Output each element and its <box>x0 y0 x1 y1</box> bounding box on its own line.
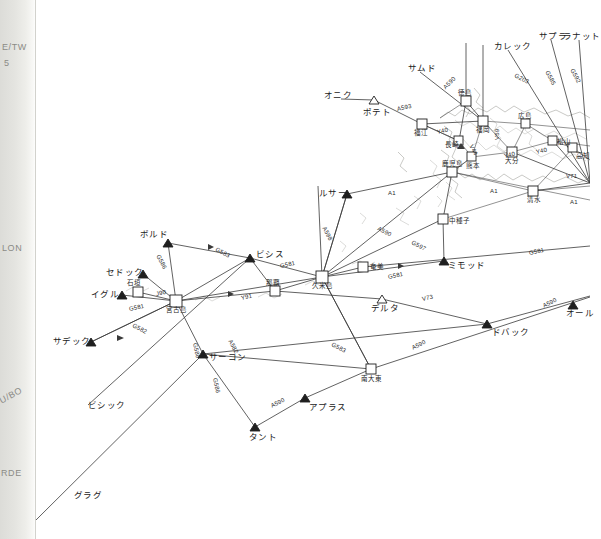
waypoint-label-sedokku[interactable]: セドック <box>106 268 144 277</box>
waypoint-label-apurasu[interactable]: アプラス <box>309 403 347 412</box>
edge-text-2: LON <box>2 243 22 253</box>
airport-label-tokushima[interactable]: 徳島 <box>458 90 472 97</box>
airway-routes <box>36 40 590 520</box>
waypoint-label-iguru[interactable]: イグル <box>91 290 119 299</box>
waypoint-label-tanto[interactable]: タント <box>249 433 277 442</box>
waypoint-label-ranatto[interactable]: ラナット <box>563 32 601 41</box>
airway-label-a1-27[interactable]: A1 <box>570 199 578 205</box>
waypoint-label-saakon[interactable]: サーコン <box>209 353 247 362</box>
waypoint-label-samudo[interactable]: サムド <box>408 64 436 73</box>
page-edge-rule <box>35 0 36 539</box>
waypoint-label-rusaa[interactable]: ルサー <box>319 189 347 198</box>
airport-label-naha[interactable]: 那覇 <box>266 280 280 287</box>
airport-label-kochi[interactable]: 高知 <box>576 153 590 160</box>
waypoint-label-sadekku[interactable]: サデック <box>53 337 91 346</box>
waypoint-label-borudo[interactable]: ボルド <box>140 230 168 239</box>
airport-label-amami[interactable]: 奄美 <box>370 264 384 271</box>
airport-label-kumamoto[interactable]: 熊本 <box>466 163 480 170</box>
waypoint-label-bishikku[interactable]: ビシック <box>88 401 126 410</box>
waypoint-label-guragu[interactable]: グラグ <box>74 491 102 500</box>
waypoint-label-karekku[interactable]: カレック <box>494 42 532 51</box>
airport-label-kumejima[interactable]: 久米島 <box>312 283 334 290</box>
airport-label-minamidaito[interactable]: 南大東 <box>361 376 383 383</box>
airport-label-fukue[interactable]: 福江 <box>414 130 428 137</box>
edge-text-3: U/BO <box>0 385 24 405</box>
airway-label-v71-28[interactable]: V71 <box>566 173 577 179</box>
edge-text-1: 5 <box>4 58 10 68</box>
waypoint-label-mimoddo[interactable]: ミモッド <box>448 261 486 270</box>
airport-label-oita[interactable]: 大分 <box>505 158 519 165</box>
airway-label-a1-25[interactable]: A1 <box>388 190 396 196</box>
airport-label-nagasaki[interactable]: 長崎 <box>445 142 459 149</box>
edge-text-4: RDE <box>1 468 22 478</box>
waypoint-label-bishisu[interactable]: ビシス <box>256 250 284 259</box>
waypoint-label-poteto[interactable]: ポテト <box>363 108 391 117</box>
waypoint-label-oniku[interactable]: オニク <box>324 91 352 100</box>
airway-label-v59-32[interactable]: V59 <box>494 129 500 140</box>
scanned-page-edge: E/TW 5 LON U/BO RDE <box>0 0 36 539</box>
edge-text-0: E/TW <box>2 42 27 52</box>
airway-label-a1-26[interactable]: A1 <box>490 188 498 194</box>
airport-label-matsuyama[interactable]: 松山 <box>557 139 571 146</box>
airport-label-fukuoka[interactable]: 福岡 <box>476 127 490 134</box>
waypoint-label-dobakku[interactable]: ドバック <box>492 328 530 337</box>
airport-label-miyakojima[interactable]: 宮古島 <box>166 307 188 314</box>
airport-label-nakatane[interactable]: 中種子 <box>449 218 471 225</box>
airport-label-shimizu[interactable]: 清水 <box>527 197 541 204</box>
airport-label-ishigaki[interactable]: 石垣 <box>127 280 141 287</box>
waypoint-label-ooru[interactable]: オール <box>566 309 594 318</box>
waypoint-label-deruta[interactable]: デルタ <box>371 304 399 313</box>
airport-label-kagoshima[interactable]: 鹿児島 <box>442 161 464 168</box>
airport-label-hiroshima[interactable]: 広島 <box>518 113 532 120</box>
